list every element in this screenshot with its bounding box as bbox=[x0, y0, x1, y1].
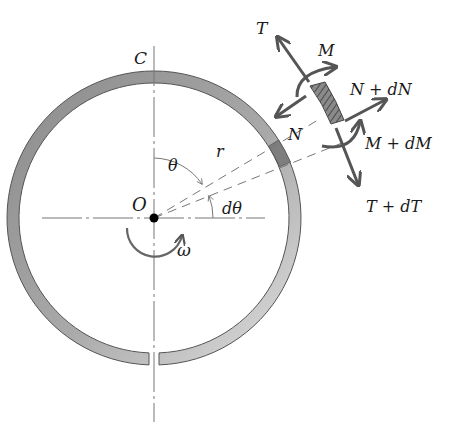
label-T: T bbox=[256, 18, 269, 38]
label-dtheta: dθ bbox=[222, 199, 242, 218]
label-r: r bbox=[216, 142, 225, 161]
rotating-ring-free-body-diagram: C O θ r dθ ω T M N N + dN M + dM T + dT bbox=[0, 0, 474, 426]
labels: C O θ r dθ ω T M N N + dN M + dM T + dT bbox=[132, 18, 432, 260]
dtheta-angle-arc bbox=[209, 196, 213, 218]
label-omega: ω bbox=[177, 240, 191, 260]
label-C: C bbox=[134, 48, 147, 68]
normal-N-dN-arrow bbox=[345, 100, 385, 121]
label-T-plus-dT: T + dT bbox=[366, 197, 422, 216]
free-body-element bbox=[310, 82, 344, 124]
label-theta: θ bbox=[168, 156, 178, 175]
label-N-plus-dN: N + dN bbox=[349, 80, 413, 99]
center-point-O bbox=[150, 214, 159, 223]
theta-angle-arc bbox=[154, 158, 202, 184]
label-O: O bbox=[132, 194, 147, 215]
label-M-plus-dM: M + dM bbox=[364, 134, 432, 153]
normal-N-arrow bbox=[277, 96, 306, 116]
label-N: N bbox=[287, 125, 303, 144]
ring-element-highlight bbox=[269, 140, 291, 167]
label-M: M bbox=[317, 41, 335, 60]
tension-T-arrow bbox=[278, 38, 309, 82]
